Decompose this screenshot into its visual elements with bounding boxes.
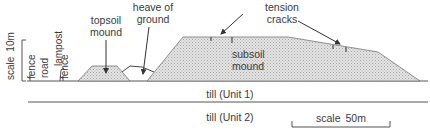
subsoil-label-line2: mound: [232, 60, 264, 72]
topsoil-label-line1: topsoil: [91, 14, 121, 26]
cross-section-diagram: scale10m fence road lampost fence topsoi…: [0, 0, 430, 132]
tension-cracks-arrow-left: [221, 14, 243, 34]
topsoil-mound: [78, 66, 130, 81]
roadside-features: fence road lampost fence: [26, 31, 70, 81]
heave-label-line2: ground: [137, 13, 170, 25]
tension-cracks-label-line2: cracks: [267, 13, 297, 25]
tension-cracks-label-line1: tension: [265, 1, 299, 13]
subsoil-mound: [147, 37, 420, 81]
road-label: road: [39, 58, 50, 78]
heave-of-ground: [122, 66, 154, 72]
till-unit1-label: till (Unit 1): [206, 88, 253, 100]
till-unit2-label: till (Unit 2): [206, 111, 253, 123]
fence-right-label: fence: [59, 54, 70, 79]
horizontal-scale-label: scale50m: [316, 112, 366, 124]
vertical-scale-label: scale10m: [5, 32, 16, 80]
heave-label-line1: heave of: [133, 1, 173, 13]
fence-left-label: fence: [26, 54, 37, 79]
topsoil-label-line2: mound: [90, 26, 122, 38]
horizontal-scale-bar: scale50m: [292, 112, 390, 127]
vertical-scale-bar: scale10m: [5, 32, 26, 81]
subsoil-label-line1: subsoil: [232, 48, 265, 60]
heave-arrow: [143, 27, 149, 74]
